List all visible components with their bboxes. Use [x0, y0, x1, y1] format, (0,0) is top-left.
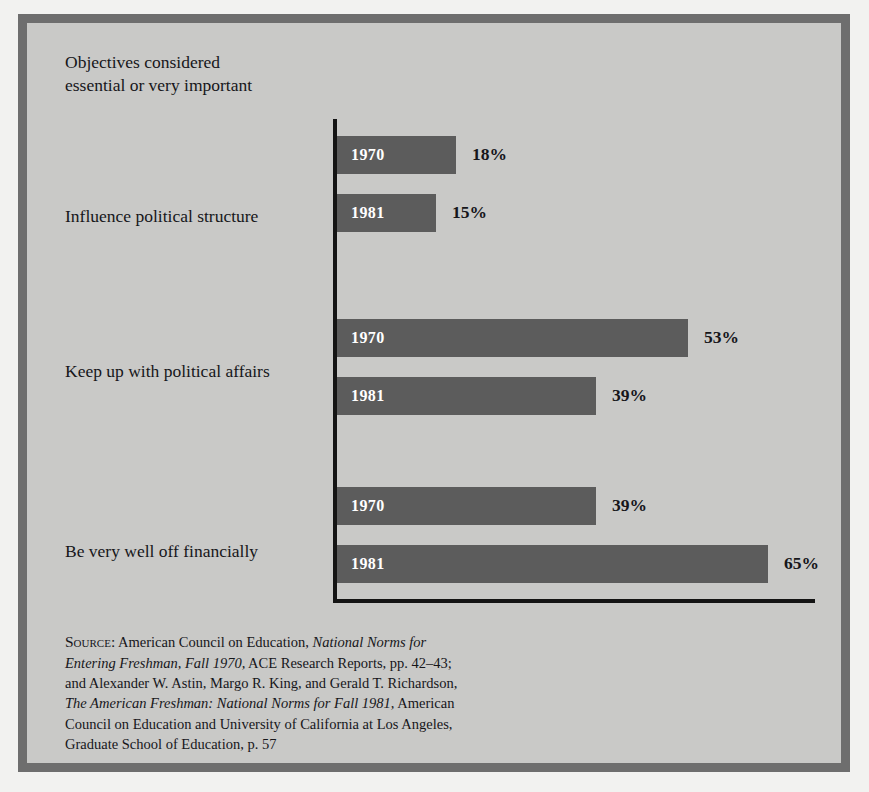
- bar-value-label: 39%: [612, 497, 647, 515]
- bar-keepup-1981: 1981 39%: [337, 377, 596, 415]
- category-label-influence-political-structure: Influence political structure: [65, 206, 345, 227]
- bar-year-label: 1981: [351, 388, 385, 404]
- x-axis-baseline: [333, 599, 815, 603]
- bar-value-label: 65%: [784, 555, 819, 573]
- figure-frame: Objectives considered essential or very …: [18, 14, 850, 772]
- source-line-1: Source: American Council on Education, N…: [65, 631, 705, 653]
- chart-title-line-1-visible: Objectives considered: [65, 51, 365, 74]
- bar-keepup-1970: 1970 53%: [337, 319, 688, 357]
- bar-welloff-1981: 1981 65%: [337, 545, 768, 583]
- y-axis-line: [333, 119, 337, 603]
- bar-welloff-1970: 1970 39%: [337, 487, 596, 525]
- chart-title-line-2: essential or very important: [65, 74, 365, 97]
- source-line-1-italic: National Norms for: [313, 634, 427, 650]
- bar-year-label: 1981: [351, 205, 385, 221]
- bar-year-label: 1981: [351, 556, 385, 572]
- bar-value-label: 18%: [472, 146, 507, 164]
- bar-year-label: 1970: [351, 147, 385, 163]
- source-line-4-rest: American: [394, 695, 454, 711]
- bar-value-label: 15%: [452, 204, 487, 222]
- bar-value-label: 53%: [704, 329, 739, 347]
- source-line-6: Graduate School of Education, p. 57: [65, 734, 705, 754]
- chart-title: Objectives considered essential or very …: [65, 51, 365, 98]
- bar-year-label: 1970: [351, 330, 385, 346]
- source-label: Source:: [65, 633, 115, 650]
- source-line-4-italic: The American Freshman: National Norms fo…: [65, 695, 394, 711]
- bar-value-label: 39%: [612, 387, 647, 405]
- category-label-keep-up-political-affairs: Keep up with political affairs: [65, 361, 345, 382]
- bar-influence-1981: 1981 15%: [337, 194, 436, 232]
- source-line-2-rest: ACE Research Reports, pp. 42–43;: [245, 655, 452, 671]
- source-line-4: The American Freshman: National Norms fo…: [65, 693, 705, 713]
- category-label-be-very-well-off-financially: Be very well off financially: [65, 541, 345, 562]
- source-line-5: Council on Education and University of C…: [65, 714, 705, 734]
- figure-plate: Objectives considered essential or very …: [27, 23, 841, 763]
- source-line-1-rest: American Council on Education,: [115, 634, 312, 650]
- figure-container: Objectives considered essential or very …: [0, 0, 869, 792]
- source-line-3: and Alexander W. Astin, Margo R. King, a…: [65, 673, 705, 693]
- bar-year-label: 1970: [351, 498, 385, 514]
- plot-area: 1970 18% 1981 15% 1970 53% 1981 39%: [333, 105, 833, 635]
- source-line-2: Entering Freshman, Fall 1970, ACE Resear…: [65, 653, 705, 673]
- bar-influence-1970: 1970 18%: [337, 136, 456, 174]
- source-note: Source: American Council on Education, N…: [65, 631, 705, 754]
- source-line-2-italic: Entering Freshman, Fall 1970,: [65, 655, 245, 671]
